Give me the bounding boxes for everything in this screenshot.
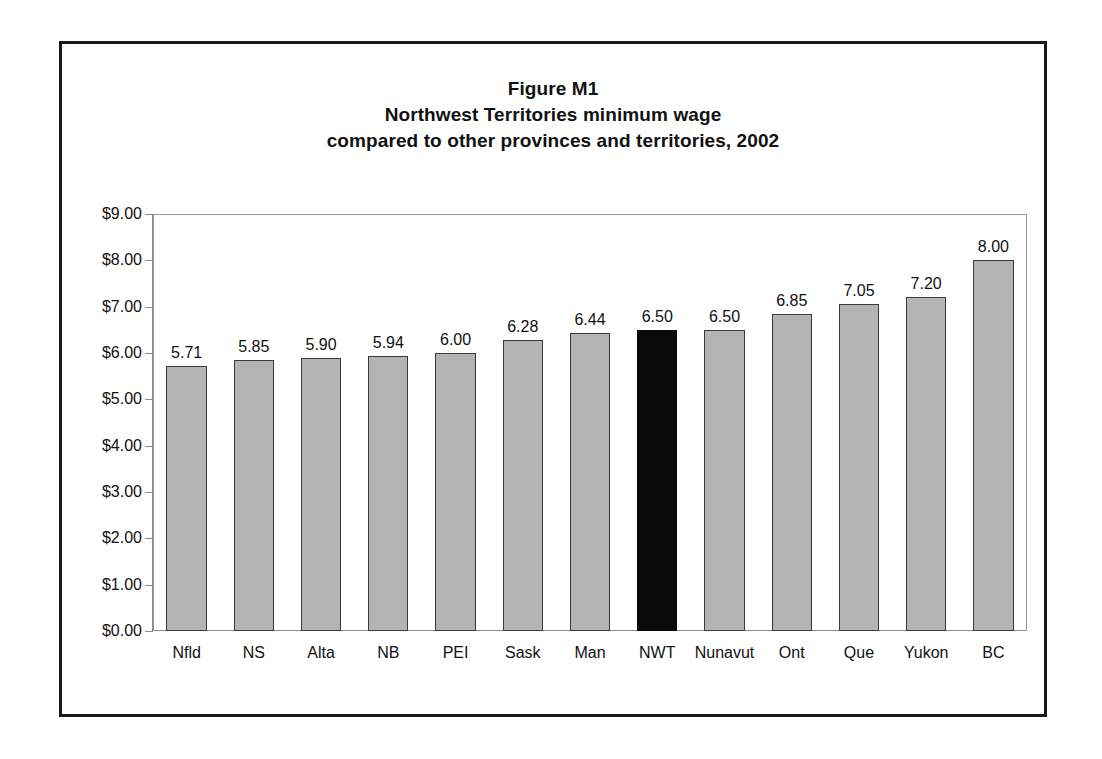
chart-title-line-1: Figure M1	[62, 76, 1044, 102]
y-axis-tick	[145, 585, 153, 586]
x-axis-label-yukon: Yukon	[893, 644, 960, 662]
y-axis-label: $9.00	[102, 205, 142, 223]
bar-ns[interactable]: 5.85	[234, 360, 274, 631]
bar-value-label: 8.00	[978, 238, 1009, 256]
y-axis-tick	[145, 214, 153, 215]
x-axis-label-sask: Sask	[489, 644, 556, 662]
bar-nfld[interactable]: 5.71	[166, 366, 206, 631]
bar-pei[interactable]: 6.00	[435, 353, 475, 631]
bar-sask[interactable]: 6.28	[503, 340, 543, 631]
y-axis-label: $7.00	[102, 298, 142, 316]
bar-value-label: 6.00	[440, 331, 471, 349]
bar-que[interactable]: 7.05	[839, 304, 879, 631]
bar-slot: 8.00	[960, 214, 1027, 631]
bar-slot: 5.90	[287, 214, 354, 631]
bar-slot: 6.28	[489, 214, 556, 631]
chart-title-line-2: Northwest Territories minimum wage	[62, 102, 1044, 128]
plot-wrapper: $0.00$1.00$2.00$3.00$4.00$5.00$6.00$7.00…	[153, 214, 1027, 631]
chart-title-line-3: compared to other provinces and territor…	[62, 128, 1044, 154]
x-axis-label-nunavut: Nunavut	[691, 644, 758, 662]
x-axis-label-bc: BC	[960, 644, 1027, 662]
bar-slot: 5.85	[220, 214, 287, 631]
x-axis-label-alta: Alta	[287, 644, 354, 662]
y-axis-tick	[145, 492, 153, 493]
x-axis-label-nwt: NWT	[624, 644, 691, 662]
y-axis-label: $0.00	[102, 622, 142, 640]
y-axis-label: $6.00	[102, 344, 142, 362]
bar-slot: 6.85	[758, 214, 825, 631]
y-axis-label: $4.00	[102, 437, 142, 455]
bar-value-label: 5.94	[373, 334, 404, 352]
bar-value-label: 5.85	[238, 338, 269, 356]
bar-bc[interactable]: 8.00	[973, 260, 1013, 631]
bar-slot: 6.50	[691, 214, 758, 631]
chart-title: Figure M1 Northwest Territories minimum …	[62, 76, 1044, 154]
bar-slot: 6.00	[422, 214, 489, 631]
x-axis-label-nfld: Nfld	[153, 644, 220, 662]
bar-nb[interactable]: 5.94	[368, 356, 408, 631]
y-axis-label: $8.00	[102, 251, 142, 269]
bar-value-label: 6.85	[776, 292, 807, 310]
y-axis-tick	[145, 631, 153, 632]
bar-value-label: 5.90	[306, 336, 337, 354]
bar-value-label: 6.44	[574, 311, 605, 329]
x-axis-labels: NfldNSAltaNBPEISaskManNWTNunavutOntQueYu…	[153, 644, 1027, 662]
bar-ont[interactable]: 6.85	[772, 314, 812, 631]
x-axis-label-ns: NS	[220, 644, 287, 662]
x-axis-label-nb: NB	[355, 644, 422, 662]
bar-slot: 5.94	[355, 214, 422, 631]
y-axis-label: $2.00	[102, 529, 142, 547]
bar-series: 5.715.855.905.946.006.286.446.506.506.85…	[153, 214, 1027, 631]
bar-nunavut[interactable]: 6.50	[704, 330, 744, 631]
x-axis-label-pei: PEI	[422, 644, 489, 662]
bar-man[interactable]: 6.44	[570, 333, 610, 631]
y-axis-tick	[145, 399, 153, 400]
bar-value-label: 7.20	[911, 275, 942, 293]
bar-slot: 5.71	[153, 214, 220, 631]
bar-value-label: 6.50	[642, 308, 673, 326]
x-axis-label-ont: Ont	[758, 644, 825, 662]
bar-yukon[interactable]: 7.20	[906, 297, 946, 631]
bar-value-label: 6.50	[709, 308, 740, 326]
bar-value-label: 7.05	[843, 282, 874, 300]
y-axis-tick	[145, 307, 153, 308]
bar-slot: 6.44	[556, 214, 623, 631]
y-axis-tick	[145, 260, 153, 261]
figure-frame: Figure M1 Northwest Territories minimum …	[59, 41, 1047, 717]
bar-alta[interactable]: 5.90	[301, 358, 341, 631]
bar-slot: 6.50	[624, 214, 691, 631]
y-axis-label: $3.00	[102, 483, 142, 501]
bar-slot: 7.05	[825, 214, 892, 631]
bar-nwt[interactable]: 6.50	[637, 330, 677, 631]
x-axis-label-man: Man	[556, 644, 623, 662]
y-axis-tick	[145, 446, 153, 447]
x-axis-label-que: Que	[825, 644, 892, 662]
bar-slot: 7.20	[893, 214, 960, 631]
y-axis-tick	[145, 353, 153, 354]
bar-value-label: 6.28	[507, 318, 538, 336]
bar-value-label: 5.71	[171, 344, 202, 362]
y-axis-tick	[145, 538, 153, 539]
y-axis-label: $1.00	[102, 576, 142, 594]
y-axis-label: $5.00	[102, 390, 142, 408]
